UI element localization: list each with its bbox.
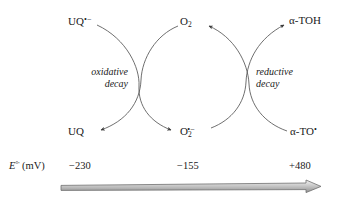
- superoxide-superscript: •−: [187, 125, 195, 134]
- process-label-oxidative-decay: oxidative decay: [44, 66, 128, 90]
- ubisemiquinone-superscript: •−: [84, 15, 92, 24]
- species-label-oxygen: O2: [180, 16, 192, 29]
- axis-value-left-text: −230: [69, 160, 91, 171]
- axis-value-right: +480: [289, 161, 311, 172]
- species-label-ubisemiquinone: UQ•−: [68, 16, 92, 27]
- ubisemiquinone-base: UQ: [68, 15, 84, 27]
- axis-value-left: −230: [69, 161, 91, 172]
- oxygen-base: O: [180, 15, 188, 27]
- tocopheroxyl-superscript: •: [314, 125, 317, 134]
- tocopherol-text: α-TOH: [289, 14, 321, 26]
- axis-value-center-text: −155: [177, 160, 199, 171]
- axis-value-right-text: +480: [289, 160, 311, 171]
- oxygen-subscript: 2: [188, 20, 192, 29]
- species-label-tocopheroxyl: α-TO•: [290, 126, 317, 137]
- ubiquinone-base: UQ: [68, 125, 84, 137]
- axis-units: (mV): [22, 160, 45, 171]
- potential-axis-arrow: [61, 180, 321, 193]
- tocopheroxyl-base: α-TO: [290, 125, 314, 137]
- oxidative-decay-line1: oxidative: [44, 66, 128, 78]
- reductive-decay-line1: reductive: [256, 66, 340, 78]
- redox-cycle-figure: UQ•− UQ O2 O2•− α-TOH α-TO• oxidative de…: [0, 0, 342, 201]
- species-label-tocopherol: α-TOH: [289, 15, 321, 26]
- species-label-superoxide: O2•−: [180, 126, 195, 139]
- oxidative-decay-line2: decay: [44, 78, 128, 90]
- process-label-reductive-decay: reductive decay: [256, 66, 340, 90]
- reductive-decay-line2: decay: [256, 78, 340, 90]
- species-label-ubiquinone: UQ: [68, 126, 84, 137]
- axis-value-center: −155: [177, 161, 199, 172]
- axis-caption: E°' (mV): [9, 161, 45, 172]
- axis-symbol-superscript: °': [15, 160, 19, 168]
